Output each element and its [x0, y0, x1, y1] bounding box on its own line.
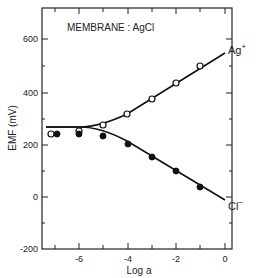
x-tick-label: -2: [172, 254, 180, 264]
chart: 600 400 200 0 -200 -6 -4 -2 0 Log a EMF …: [0, 0, 270, 278]
x-tick-label: 0: [222, 254, 227, 264]
x-tick-label: -6: [75, 254, 83, 264]
y-tick-label: 400: [23, 88, 38, 98]
y-axis-label: EMF (mV): [7, 105, 18, 151]
cl-series-label: Cl−: [228, 198, 243, 212]
plot-frame: [42, 8, 232, 249]
y-tick-label: 200: [23, 140, 38, 150]
y-tick-label: 600: [23, 34, 38, 44]
cl-markers: [54, 131, 203, 190]
y-tick-label: 0: [33, 192, 38, 202]
ag-markers: [48, 63, 203, 137]
x-tick-label: -4: [124, 254, 132, 264]
chart-title: MEMBRANE : AgCl: [67, 22, 154, 33]
y-tick-label: -200: [20, 244, 38, 254]
x-axis-label: Log a: [126, 265, 151, 276]
ag-series-label: Ag+: [228, 42, 246, 56]
